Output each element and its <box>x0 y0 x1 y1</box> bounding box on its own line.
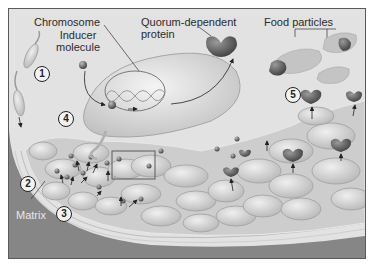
inducer-molecule-free <box>79 61 87 69</box>
label-inducer-line2: molecule <box>56 41 100 53</box>
step-3-badge: 3 <box>56 206 72 222</box>
label-food-particles: Food particles <box>264 16 333 28</box>
step-1-badge: 1 <box>34 66 50 82</box>
label-inducer-molecule: Inducer molecule <box>56 29 100 53</box>
label-chromosome: Chromosome <box>34 16 100 28</box>
step-4-badge: 4 <box>58 111 74 127</box>
step-2-badge: 2 <box>20 176 36 192</box>
step-5-badge: 5 <box>285 87 301 103</box>
label-inducer-line1: Inducer <box>56 29 100 41</box>
label-quorum-line2: protein <box>141 28 236 40</box>
label-quorum-dependent-protein: Quorum-dependent protein <box>141 16 236 40</box>
label-quorum-line1: Quorum-dependent <box>141 16 236 28</box>
biofilm-diagram: Chromosome Inducer molecule Quorum-depen… <box>8 8 366 259</box>
label-matrix: Matrix <box>16 209 46 221</box>
